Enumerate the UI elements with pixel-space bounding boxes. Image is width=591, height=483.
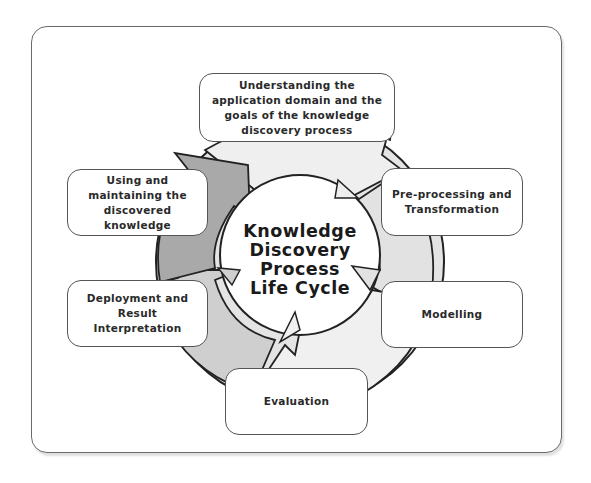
stage-deployment: Deployment and Result Interpretation [67, 280, 208, 347]
stage-modelling: Modelling [381, 281, 523, 348]
stage-using: Using and maintaining the discovered kno… [67, 169, 208, 236]
stage-preprocessing: Pre-processing and Transformation [381, 168, 523, 236]
stage-understanding: Understanding the application domain and… [199, 73, 395, 142]
center-title: Knowledge Discovery Process Life Cycle [230, 222, 370, 298]
stage-evaluation: Evaluation [225, 368, 368, 435]
